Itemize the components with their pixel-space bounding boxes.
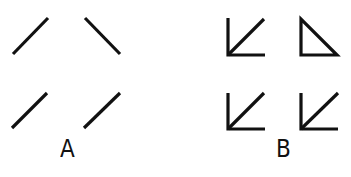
- panel-b-top-right-triangle: [301, 19, 337, 55]
- panel-b-label: B: [276, 137, 291, 161]
- panel-a: [12, 18, 120, 128]
- panel-a-bottom-left-line: [12, 93, 47, 128]
- figure: A B: [0, 0, 351, 177]
- panel-a-bottom-right-line: [84, 93, 120, 128]
- panel-b-bottom-left-corner: [228, 93, 265, 129]
- panel-b: [228, 18, 338, 129]
- panel-b-bottom-right-corner: [301, 93, 338, 129]
- panel-a-label: A: [60, 137, 75, 161]
- panel-a-top-left-line: [13, 18, 48, 54]
- figure-canvas: [0, 0, 351, 177]
- panel-b-top-left-corner: [228, 18, 265, 55]
- panel-a-top-right-line: [85, 18, 120, 54]
